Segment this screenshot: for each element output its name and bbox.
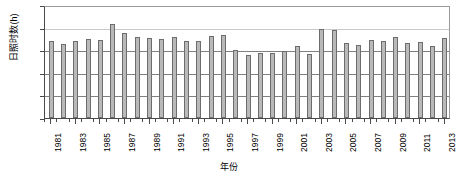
- x-tick-mark-minor: [167, 119, 168, 122]
- x-tick-mark: [395, 119, 396, 124]
- x-tick-mark-minor: [179, 119, 180, 122]
- x-tick-mark-minor: [241, 119, 242, 122]
- x-tick-mark-minor: [69, 119, 70, 122]
- x-tick-label: 1995: [226, 133, 235, 152]
- x-tick-mark: [345, 119, 346, 124]
- bar: [73, 41, 78, 118]
- bar: [86, 39, 91, 118]
- bar: [295, 46, 300, 118]
- bar: [258, 53, 263, 118]
- bar: [369, 40, 374, 118]
- x-tick-mark: [173, 119, 174, 124]
- x-tick-mark: [272, 119, 273, 124]
- x-tick-mark-minor: [302, 119, 303, 122]
- bar: [98, 40, 103, 118]
- x-tick-mark-minor: [44, 119, 45, 122]
- x-tick-mark: [370, 119, 371, 124]
- x-tick-mark-minor: [118, 119, 119, 122]
- x-tick-label: 1987: [128, 133, 137, 152]
- bar: [418, 42, 423, 118]
- bar: [332, 30, 337, 118]
- bar: [393, 37, 398, 118]
- x-tick-label: 1985: [103, 133, 112, 152]
- x-tick-mark-minor: [315, 119, 316, 122]
- x-tick-label: 1981: [54, 133, 63, 152]
- bar: [196, 41, 201, 118]
- bar: [159, 39, 164, 118]
- x-tick-mark-minor: [56, 119, 57, 122]
- bar: [405, 43, 410, 118]
- bar: [233, 50, 238, 118]
- x-tick-mark-minor: [388, 119, 389, 122]
- x-tick-mark-minor: [253, 119, 254, 122]
- x-tick-mark-minor: [192, 119, 193, 122]
- x-tick-mark-minor: [265, 119, 266, 122]
- x-tick-label: 2003: [325, 133, 334, 152]
- x-tick-mark-minor: [229, 119, 230, 122]
- x-tick-mark-minor: [130, 119, 131, 122]
- x-tick-label: 1993: [202, 133, 211, 152]
- x-tick-label: 1989: [153, 133, 162, 152]
- x-tick-mark: [321, 119, 322, 124]
- x-tick-mark-minor: [339, 119, 340, 122]
- bar: [110, 24, 115, 118]
- bar: [270, 53, 275, 118]
- x-tick-mark-minor: [413, 119, 414, 122]
- sunshine-hours-bar-chart: 日照时数(h) 05001000150020002500 19811983198…: [0, 0, 457, 178]
- bar: [246, 55, 251, 118]
- x-tick-mark-minor: [290, 119, 291, 122]
- bar: [61, 44, 66, 118]
- x-tick-mark-minor: [204, 119, 205, 122]
- x-tick-mark-minor: [216, 119, 217, 122]
- y-axis-title: 日照时数(h): [7, 0, 21, 77]
- bar: [122, 33, 127, 118]
- bar: [209, 36, 214, 118]
- bar: [442, 38, 447, 118]
- bar: [319, 29, 324, 118]
- x-tick-mark-minor: [142, 119, 143, 122]
- bar: [282, 51, 287, 118]
- x-tick-label: 2011: [423, 134, 432, 152]
- bar-series: [45, 7, 449, 118]
- x-tick-mark: [419, 119, 420, 124]
- x-tick-mark: [247, 119, 248, 124]
- x-tick-mark-minor: [376, 119, 377, 122]
- x-tick-mark-minor: [278, 119, 279, 122]
- x-axis-title: 年份: [0, 160, 457, 173]
- x-tick-mark: [124, 119, 125, 124]
- bar: [356, 45, 361, 118]
- x-tick-label: 2007: [374, 133, 383, 152]
- x-tick-label: 1999: [276, 133, 285, 152]
- x-tick-mark-minor: [352, 119, 353, 122]
- bar: [184, 41, 189, 118]
- x-tick-mark-minor: [155, 119, 156, 122]
- bar: [172, 37, 177, 118]
- x-tick-mark: [149, 119, 150, 124]
- bar: [135, 37, 140, 118]
- x-tick-mark-minor: [401, 119, 402, 122]
- plot-area: [44, 6, 450, 119]
- x-tick-mark-minor: [364, 119, 365, 122]
- x-tick-mark: [99, 119, 100, 124]
- x-tick-mark-minor: [425, 119, 426, 122]
- x-tick-label: 2009: [399, 133, 408, 152]
- x-tick-mark: [50, 119, 51, 124]
- x-tick-label: 1983: [79, 133, 88, 152]
- x-tick-label: 1991: [177, 133, 186, 152]
- x-tick-mark-minor: [438, 119, 439, 122]
- x-tick-mark: [444, 119, 445, 124]
- x-tick-label: 2001: [300, 133, 309, 152]
- x-tick-mark-minor: [93, 119, 94, 122]
- bar: [344, 43, 349, 118]
- x-tick-mark: [296, 119, 297, 124]
- x-tick-mark: [198, 119, 199, 124]
- x-tick-mark: [222, 119, 223, 124]
- x-tick-mark-minor: [327, 119, 328, 122]
- bar: [147, 38, 152, 118]
- bar: [221, 35, 226, 118]
- x-tick-label: 2005: [349, 133, 358, 152]
- bar: [430, 46, 435, 118]
- x-tick-mark: [75, 119, 76, 124]
- x-tick-mark-minor: [81, 119, 82, 122]
- bar: [307, 54, 312, 118]
